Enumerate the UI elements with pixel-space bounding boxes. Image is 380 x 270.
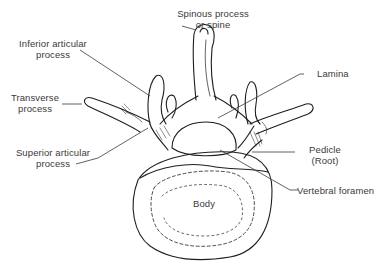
vertebra-diagram: Spinous process or spine Inferior articu… bbox=[0, 0, 380, 270]
label-line: Lamina bbox=[317, 68, 349, 79]
label-line: Superior articular bbox=[10, 147, 96, 158]
label-line: process bbox=[6, 103, 64, 114]
label-inferior-articular-process: Inferior articular process bbox=[8, 38, 98, 60]
label-line: (Root) bbox=[300, 155, 350, 166]
label-superior-articular-process: Superior articular process bbox=[10, 147, 96, 169]
label-lamina: Lamina bbox=[317, 68, 349, 79]
right-transverse-process-outline bbox=[250, 104, 313, 134]
label-line: Inferior articular bbox=[8, 38, 98, 49]
label-line: Transverse bbox=[6, 92, 64, 103]
label-line: Vertebral foramen bbox=[297, 185, 374, 196]
label-line: Spinous process bbox=[160, 8, 266, 19]
label-vertebral-foramen: Vertebral foramen bbox=[297, 185, 374, 196]
right-superior-articular-outline bbox=[245, 82, 260, 124]
label-line: process bbox=[8, 49, 98, 60]
vertebral-foramen-outline bbox=[172, 122, 236, 156]
left-transverse-process-outline bbox=[85, 98, 150, 132]
label-line: process bbox=[10, 158, 96, 169]
label-transverse-process: Transverse process bbox=[6, 92, 64, 114]
label-line: or spine bbox=[160, 19, 266, 30]
spinous-process-outline bbox=[193, 25, 216, 100]
label-line: Body bbox=[193, 198, 215, 209]
left-inferior-articular-outline bbox=[166, 95, 176, 118]
label-spinous-process: Spinous process or spine bbox=[160, 8, 266, 30]
right-inferior-articular-outline bbox=[230, 95, 238, 118]
label-line: Pedicle bbox=[300, 144, 350, 155]
label-pedicle: Pedicle (Root) bbox=[300, 144, 350, 166]
label-body: Body bbox=[193, 198, 215, 209]
left-superior-articular-outline bbox=[148, 75, 166, 124]
